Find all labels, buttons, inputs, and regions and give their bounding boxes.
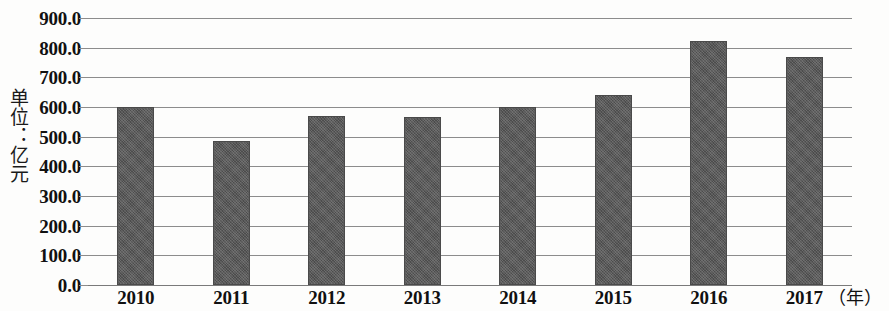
y-axis-tick-label: 600.0: [0, 98, 88, 117]
y-axis-tick-mark: [79, 107, 88, 108]
bar: [499, 107, 536, 285]
x-axis-tick-label: 2013: [404, 287, 441, 309]
gridline: [88, 77, 852, 78]
y-axis-tick-mark: [79, 196, 88, 197]
bar: [213, 141, 250, 285]
y-axis-tick-label: 200.0: [0, 216, 88, 235]
y-axis-tick-mark: [79, 137, 88, 138]
y-axis-tick-label: 800.0: [0, 38, 88, 57]
y-axis-tick-label: 300.0: [0, 187, 88, 206]
x-axis-tick-label: 2014: [499, 287, 536, 309]
y-axis-tick-mark: [79, 255, 88, 256]
y-axis-tick-mark: [79, 226, 88, 227]
y-axis-tick-mark: [79, 166, 88, 167]
gridline: [88, 137, 852, 138]
axis-baseline: [88, 285, 852, 286]
bar: [117, 107, 154, 285]
x-axis-tick-label: 2016: [690, 287, 727, 309]
x-axis-tick-labels: （年） 20102011201220132014201520162017: [88, 287, 889, 311]
y-axis-tick-labels: 900.0800.0700.0600.0500.0400.0300.0200.0…: [0, 0, 88, 311]
bar: [690, 41, 727, 285]
x-axis-unit-label: （年）: [828, 287, 882, 309]
y-axis-tick-mark: [79, 77, 88, 78]
x-axis-tick-label: 2015: [595, 287, 632, 309]
y-axis-tick-label: 400.0: [0, 157, 88, 176]
gridline: [88, 166, 852, 167]
x-axis-tick-label: 2010: [117, 287, 154, 309]
bar: [595, 95, 632, 285]
y-axis-tick-label: 0.0: [0, 276, 88, 295]
bar-chart: 单位：亿元 900.0800.0700.0600.0500.0400.0300.…: [0, 0, 889, 311]
y-axis-tick-mark: [79, 18, 88, 19]
y-axis-tick-label: 700.0: [0, 68, 88, 87]
y-axis-tick-label: 500.0: [0, 127, 88, 146]
y-axis-tick-label: 100.0: [0, 246, 88, 265]
gridline: [88, 48, 852, 49]
bar: [404, 117, 441, 286]
gridline: [88, 196, 852, 197]
bar: [786, 57, 823, 285]
gridline: [88, 255, 852, 256]
y-axis-tick-mark: [79, 285, 88, 286]
y-axis-tick-mark: [79, 48, 88, 49]
plot-area: [88, 18, 852, 285]
y-axis-tick-label: 900.0: [0, 9, 88, 28]
bar: [308, 116, 345, 285]
gridline: [88, 226, 852, 227]
x-axis-tick-label: 2012: [308, 287, 345, 309]
x-axis-tick-label: 2011: [213, 287, 249, 309]
gridline: [88, 107, 852, 108]
x-axis-tick-label: 2017: [786, 287, 823, 309]
gridline: [88, 18, 852, 19]
